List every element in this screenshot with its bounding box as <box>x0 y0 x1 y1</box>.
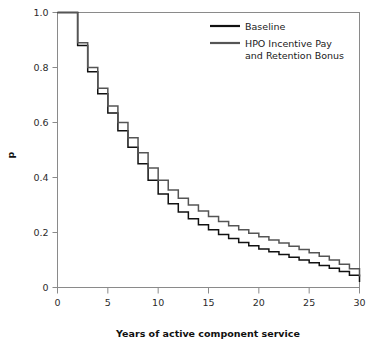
y-tick-label: 0 <box>42 282 48 293</box>
x-tick-label: 25 <box>303 297 315 308</box>
x-axis-title: Years of active component service <box>115 328 300 339</box>
x-tick-label: 15 <box>202 297 214 308</box>
y-tick-label: 0.4 <box>33 172 48 183</box>
x-tick-label: 30 <box>353 297 365 308</box>
y-tick-label: 0.2 <box>33 227 48 238</box>
chart-figure: 00.20.40.60.81.0 051015202530 Years of a… <box>0 0 384 350</box>
legend-label-hpo: HPO Incentive Pay <box>245 38 332 49</box>
y-tick-label: 0.6 <box>33 117 48 128</box>
survival-curve-chart: 00.20.40.60.81.0 051015202530 Years of a… <box>0 0 384 350</box>
legend-label-baseline: Baseline <box>245 21 285 32</box>
x-tick-label: 10 <box>152 297 164 308</box>
y-tick-label: 1.0 <box>33 7 48 18</box>
y-axis-title: p <box>5 151 16 158</box>
x-tick-label: 5 <box>105 297 111 308</box>
legend-label-hpo-line2: and Retention Bonus <box>245 50 344 61</box>
y-tick-label: 0.8 <box>33 62 48 73</box>
x-tick-label: 20 <box>253 297 265 308</box>
x-tick-label: 0 <box>54 297 60 308</box>
